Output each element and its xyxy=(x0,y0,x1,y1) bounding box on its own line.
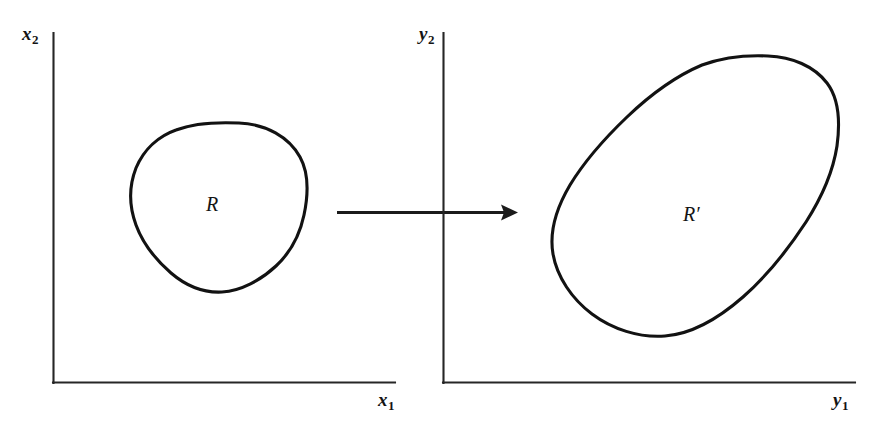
right-region-shape xyxy=(552,56,839,337)
mapping-arrow xyxy=(337,205,518,221)
region-r-prime-label: R′ xyxy=(683,204,700,224)
right-y-axis-label-base: y xyxy=(419,23,427,44)
right-y-axis-label-subscript: 2 xyxy=(428,32,435,47)
left-x-axis-label-base: x xyxy=(378,389,388,410)
left-plot-axes xyxy=(53,33,395,383)
right-x-axis-label: y1 xyxy=(833,390,848,409)
left-x-axis-label: x1 xyxy=(378,390,394,409)
figure-root: x2 x1 y2 y1 R R′ xyxy=(0,0,869,427)
right-x-axis-label-subscript: 1 xyxy=(842,398,849,413)
left-y-axis-label-base: x xyxy=(22,23,32,44)
right-y-axis-label: y2 xyxy=(419,24,434,43)
region-r-prime-outline xyxy=(552,56,839,337)
left-region-shape xyxy=(131,123,308,292)
figure-canvas xyxy=(0,0,869,427)
left-x-axis-label-subscript: 1 xyxy=(388,398,395,413)
left-y-axis-label: x2 xyxy=(22,24,38,43)
left-y-axis-label-subscript: 2 xyxy=(32,32,39,47)
region-r-outline xyxy=(131,123,308,292)
region-r-label: R xyxy=(206,194,218,214)
right-x-axis-label-base: y xyxy=(833,389,841,410)
